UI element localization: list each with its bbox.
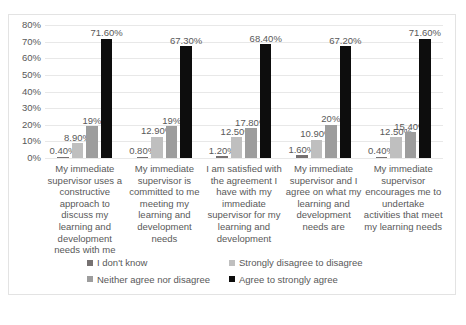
bar: 67.30%: [180, 46, 192, 158]
x-axis-category-label: My immediate supervisor encourages me to…: [363, 163, 443, 233]
bar: 15.40%: [405, 132, 417, 158]
legend-item[interactable]: Neither agree nor disagree: [87, 275, 229, 285]
bar: 12.90%: [151, 137, 163, 158]
y-axis-tick-label: 40%: [22, 87, 41, 97]
plot-area: 80%70%60%50%40%30%20%10%0% 0.40%8.90%19%…: [45, 25, 443, 158]
bar: 0.80%: [137, 157, 149, 158]
bar-group: 1.20%12.50%17.80%68.40%: [204, 25, 284, 158]
y-axis-tick-label: 60%: [22, 54, 41, 64]
x-axis-category-label: My immediate supervisor uses a construct…: [45, 163, 125, 256]
bar: 17.80%: [245, 128, 257, 158]
y-axis-tick-label: 70%: [22, 37, 41, 47]
y-axis-tick-label: 0%: [27, 153, 41, 163]
legend-label: Agree to strongly agree: [239, 275, 338, 285]
y-axis-tick-label: 50%: [22, 70, 41, 80]
x-axis-category-label: My immediate supervisor and I agree on w…: [284, 163, 364, 233]
bar-value-label: 20%: [321, 114, 340, 124]
bar-value-label: 19%: [83, 116, 102, 126]
y-axis-tick-label: 20%: [22, 120, 41, 130]
bar: 12.50%: [390, 137, 402, 158]
legend-label: I don't know: [97, 258, 147, 268]
bar: 19%: [86, 126, 98, 158]
bar: 0.40%: [376, 157, 388, 158]
bar-group: 0.40%12.50%15.40%71.60%: [363, 25, 443, 158]
gridline: [45, 158, 443, 159]
bar: 67.20%: [340, 46, 352, 158]
legend-swatch-icon: [229, 260, 235, 266]
bar-group: 0.80%12.90%19%67.30%: [125, 25, 205, 158]
bar-value-label: 67.20%: [329, 36, 361, 46]
chart-container: 80%70%60%50%40%30%20%10%0% 0.40%8.90%19%…: [8, 14, 456, 295]
x-axis-category-labels: My immediate supervisor uses a construct…: [45, 161, 443, 257]
legend-swatch-icon: [87, 276, 93, 282]
bar-value-label: 71.60%: [409, 28, 441, 38]
bar-group: 1.60%10.90%20%67.20%: [284, 25, 364, 158]
legend-item[interactable]: Agree to strongly agree: [229, 275, 387, 285]
bar-value-label: 67.30%: [170, 36, 202, 46]
legend-item[interactable]: Strongly disagree to disagree: [229, 258, 387, 268]
bar-value-label: 19%: [162, 116, 181, 126]
bar-value-label: 68.40%: [250, 34, 282, 44]
bar: 10.90%: [311, 140, 323, 158]
bar: 0.40%: [57, 157, 69, 158]
legend-item[interactable]: I don't know: [87, 258, 229, 268]
bar-value-label: 71.60%: [90, 28, 122, 38]
legend-label: Strongly disagree to disagree: [239, 258, 363, 268]
bar: 19%: [166, 126, 178, 158]
bar: 20%: [325, 125, 337, 158]
y-axis-tick-label: 30%: [22, 103, 41, 113]
legend-swatch-icon: [87, 260, 93, 266]
bar: 1.60%: [296, 155, 308, 158]
bar: 71.60%: [419, 39, 431, 158]
y-axis-tick-label: 10%: [22, 137, 41, 147]
chart-legend: I don't knowStrongly disagree to disagre…: [87, 258, 387, 284]
x-axis-category-label: My immediate supervisor is committed to …: [125, 163, 205, 244]
legend-label: Neither agree nor disagree: [97, 275, 210, 285]
bar: 68.40%: [260, 44, 272, 158]
legend-swatch-icon: [229, 276, 235, 282]
y-axis-tick-label: 80%: [22, 20, 41, 30]
x-axis-category-label: I am satisfied with the agreement I have…: [204, 163, 284, 244]
bar: 1.20%: [216, 156, 228, 158]
bar: 71.60%: [101, 39, 113, 158]
bar: 8.90%: [72, 143, 84, 158]
bar: 12.50%: [231, 137, 243, 158]
bar-group: 0.40%8.90%19%71.60%: [45, 25, 125, 158]
